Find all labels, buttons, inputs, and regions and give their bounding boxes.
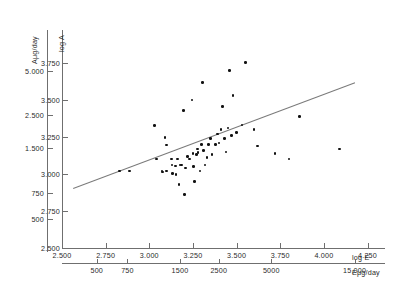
secondary-y-tick-label: 5.000 [6, 67, 44, 76]
data-point [225, 151, 228, 154]
secondary-x-tick-label: 2500 [203, 266, 235, 275]
data-point [153, 124, 156, 127]
x-tick-label: 4.250 [354, 251, 382, 260]
x-tick [106, 243, 107, 249]
secondary-y-tick [47, 219, 53, 220]
secondary-y-tick-label: 1.500 [6, 144, 44, 153]
data-point [171, 164, 174, 167]
data-point [165, 170, 168, 173]
data-point [191, 99, 194, 102]
y-tick [62, 100, 68, 101]
regression-line [73, 82, 355, 189]
x-tick-label: 3.500 [223, 251, 251, 260]
x-tick [368, 243, 369, 249]
x-tick [193, 243, 194, 249]
data-point [230, 134, 233, 137]
data-point [253, 128, 256, 131]
x-tick-label: 3.000 [135, 251, 163, 260]
scatter-chart-figure: Aμg/day log A log E Eμg/day 2.5002.7503.… [0, 0, 401, 292]
data-point [197, 151, 200, 154]
secondary-x-tick-label: 750 [111, 266, 143, 275]
data-point [182, 109, 185, 112]
secondary-y-tick [47, 115, 53, 116]
data-point [204, 164, 207, 167]
data-point [196, 148, 199, 151]
data-point [195, 153, 198, 156]
y-tick-label: 2.500 [22, 244, 60, 253]
data-point [202, 149, 205, 152]
data-point [214, 143, 217, 146]
data-point [193, 180, 196, 183]
secondary-x-tick-label: 1500 [164, 266, 196, 275]
data-point [221, 105, 224, 108]
data-point [220, 128, 223, 131]
secondary-x-tick [97, 259, 98, 264]
data-point [180, 164, 183, 167]
data-point [192, 165, 195, 168]
data-point [192, 152, 195, 155]
y-tick [62, 174, 68, 175]
data-point [200, 143, 203, 146]
secondary-x-tick-label: 500 [81, 266, 113, 275]
x-tick [149, 243, 150, 249]
x-tick [237, 243, 238, 249]
data-point [223, 137, 226, 140]
secondary-y-tick-label: 2.500 [6, 111, 44, 120]
data-point [161, 171, 164, 174]
data-point [338, 148, 341, 151]
y-tick-label: 3.500 [22, 96, 60, 105]
data-point [206, 156, 209, 159]
data-point [209, 137, 212, 140]
data-point [128, 170, 131, 173]
x-tick [280, 243, 281, 249]
secondary-y-tick [47, 71, 53, 72]
data-point [241, 124, 244, 127]
data-point [228, 69, 231, 72]
data-point [235, 131, 238, 134]
data-point [164, 136, 167, 139]
data-point [218, 142, 221, 145]
data-point [211, 153, 214, 156]
data-point [184, 167, 187, 170]
data-point [244, 61, 247, 64]
data-point [155, 158, 158, 161]
y-tick [62, 137, 68, 138]
data-point [201, 81, 204, 84]
data-point [178, 183, 181, 186]
secondary-y-tick [47, 148, 53, 149]
data-point [256, 145, 259, 148]
data-point [288, 158, 291, 161]
data-point [176, 158, 179, 161]
secondary-x-tick-label: 15,000 [339, 266, 371, 275]
x-tick [324, 243, 325, 249]
secondary-x-tick [127, 259, 128, 264]
data-point [199, 170, 202, 173]
data-point [183, 193, 186, 196]
secondary-x-tick [219, 259, 220, 264]
secondary-x-tick [355, 259, 356, 264]
data-point [298, 115, 301, 118]
data-point [175, 173, 178, 176]
secondary-y-tick-label: 500 [6, 215, 44, 224]
data-point [274, 152, 277, 155]
y-tick [62, 248, 68, 249]
secondary-x-tick [271, 259, 272, 264]
secondary-x-tick [180, 259, 181, 264]
plot-area: 2.5002.7503.0003.2503.5003.7504.0004.250… [0, 0, 401, 292]
data-point [171, 172, 174, 175]
data-point [207, 143, 210, 146]
data-point [165, 144, 168, 147]
x-tick-label: 4.000 [310, 251, 338, 260]
y-tick [62, 211, 68, 212]
secondary-y-tick [47, 193, 53, 194]
secondary-x-tick-label: 5000 [255, 266, 287, 275]
y-tick [62, 63, 68, 64]
secondary-y-tick-label: 750 [6, 189, 44, 198]
data-point [174, 165, 177, 168]
x-tick-label: 3.250 [179, 251, 207, 260]
data-point [188, 158, 191, 161]
data-point [232, 94, 235, 97]
data-point [170, 158, 173, 161]
y-tick-label: 3.250 [22, 133, 60, 142]
y-tick-label: 3.000 [22, 170, 60, 179]
